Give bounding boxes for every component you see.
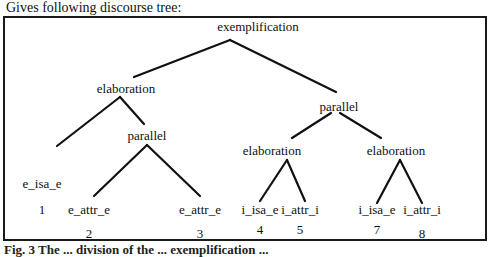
tree-node-elab3: elaboration <box>367 143 426 158</box>
tree-node-elab2: elaboration <box>243 143 302 158</box>
tree-node-leaf2: e_attr_e <box>68 202 110 217</box>
tree-edge-elab1-par1 <box>120 97 144 124</box>
figure-caption: Fig. 3 The ... division of the ... exemp… <box>4 243 268 257</box>
tree-edge-par2-elab3 <box>340 113 381 138</box>
tree-leaf-number-leaf4: 4 <box>257 222 264 237</box>
tree-node-root: exemplification <box>217 19 299 34</box>
tree-edge-elab2-leaf5 <box>287 160 305 201</box>
tree-edge-root-par2 <box>230 40 336 92</box>
tree-node-leaf4: i_isa_e <box>242 202 279 217</box>
tree-edge-elab1-leaf1 <box>57 97 120 146</box>
tree-node-par2: parallel <box>320 99 359 114</box>
tree-node-leaf5: i_attr_i <box>281 202 319 217</box>
tree-leaf-number-leaf7: 7 <box>374 222 381 237</box>
tree-node-leaf1: e_isa_e <box>23 176 62 191</box>
tree-leaf-number-leaf8: 8 <box>419 226 426 241</box>
tree-edge-par2-elab2 <box>292 113 331 138</box>
tree-edge-par1-leaf2 <box>94 145 147 196</box>
tree-node-leaf7: i_isa_e <box>359 202 396 217</box>
tree-node-leaf3: e_attr_e <box>179 202 221 217</box>
tree-edge-elab2-leaf4 <box>260 160 287 201</box>
tree-node-leaf8: i_attr_i <box>403 202 441 217</box>
tree-leaf-number-leaf3: 3 <box>197 226 204 241</box>
tree-node-par1: parallel <box>128 128 167 143</box>
tree-edge-root-elab1 <box>134 40 230 77</box>
tree-edge-elab3-leaf7 <box>377 160 400 203</box>
tree-node-elab1: elaboration <box>97 81 156 96</box>
tree-leaf-number-leaf5: 5 <box>297 222 304 237</box>
tree-leaf-number-leaf1: 1 <box>39 202 46 217</box>
tree-leaf-number-leaf2: 2 <box>86 226 93 241</box>
tree-edge-elab3-leaf8 <box>400 160 422 203</box>
tree-edge-par1-leaf3 <box>147 145 200 196</box>
